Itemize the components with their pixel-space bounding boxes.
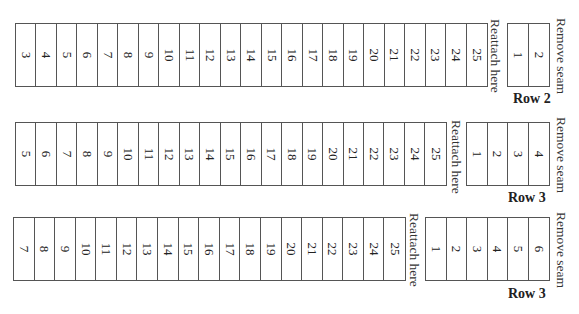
cell-number: 20	[326, 148, 339, 161]
cell-number: 11	[142, 148, 155, 161]
cell-number: 10	[163, 49, 176, 62]
cell-number: 2	[532, 52, 545, 59]
strip-cell: 19	[303, 123, 323, 185]
cell-number: 13	[141, 243, 154, 256]
strip-cell: 9	[139, 24, 159, 86]
seam-cell: 2	[488, 123, 509, 185]
seam-cell: 4	[529, 123, 549, 185]
cell-number: 19	[306, 148, 319, 161]
strip-cell: 4	[36, 24, 56, 86]
cell-number: 10	[122, 148, 135, 161]
cell-number: 13	[224, 49, 237, 62]
strip-cell: 16	[241, 123, 261, 185]
cell-number: 6	[81, 52, 94, 59]
seam-cell: 5	[508, 218, 529, 280]
cell-number: 8	[122, 52, 135, 59]
strip-cell: 10	[118, 123, 138, 185]
strip-cell: 13	[137, 218, 158, 280]
cell-number: 9	[101, 151, 114, 158]
remove-seam-label: Remove seam	[555, 212, 569, 288]
reattach-label: Reattach here	[408, 213, 422, 287]
cell-number: 16	[202, 243, 215, 256]
strip-cell: 8	[118, 24, 138, 86]
strip-cell: 11	[180, 24, 200, 86]
strip-cell: 7	[98, 24, 118, 86]
strip-cell: 21	[344, 123, 364, 185]
cell-number: 1	[511, 52, 524, 59]
cell-number: 20	[285, 243, 298, 256]
remove-seam-label: Remove seam	[555, 117, 569, 193]
cell-number: 8	[38, 246, 51, 253]
remove-seam-label: Remove seam	[555, 18, 569, 94]
strip-cell: 24	[364, 218, 385, 280]
cell-number: 15	[224, 148, 237, 161]
strip-cell: 24	[405, 123, 425, 185]
strip-cell: 14	[158, 218, 179, 280]
strip-cell: 19	[261, 218, 282, 280]
cell-number: 1	[470, 151, 483, 158]
seam-cell: 1	[508, 24, 529, 86]
strip-cell: 22	[364, 123, 384, 185]
cell-number: 14	[203, 148, 216, 161]
seam-strip-2: 1 2 3 4	[466, 122, 550, 186]
cell-number: 17	[223, 243, 236, 256]
strip-cell: 8	[35, 218, 56, 280]
cell-number: 14	[245, 49, 258, 62]
cell-number: 12	[204, 49, 217, 62]
seam-cell: 2	[447, 218, 468, 280]
strip-cell: 15	[262, 24, 282, 86]
strip-cell: 20	[364, 24, 384, 86]
main-strip-2: 5 6 7 8 9 10 11 12 13 14 15 16 17 18 19 …	[15, 122, 447, 186]
strip-cell: 12	[117, 218, 138, 280]
strip-cell: 18	[282, 123, 302, 185]
cell-number: 5	[60, 52, 73, 59]
cell-number: 19	[347, 49, 360, 62]
cell-number: 7	[17, 246, 30, 253]
seam-strip-3: 1 2 3 4 5 6	[425, 217, 550, 281]
strip-cell: 17	[303, 24, 323, 86]
cell-number: 22	[367, 148, 380, 161]
seam-cell: 4	[488, 218, 509, 280]
seam-cell: 2	[529, 24, 549, 86]
seam-cell: 3	[508, 123, 529, 185]
cell-number: 9	[142, 52, 155, 59]
strip-cell: 22	[405, 24, 425, 86]
cell-number: 5	[19, 151, 32, 158]
cell-number: 4	[491, 246, 504, 253]
cell-number: 15	[182, 243, 195, 256]
strip-cell: 12	[159, 123, 179, 185]
cell-number: 2	[450, 246, 463, 253]
cell-number: 1	[429, 246, 442, 253]
reattach-label: Reattach here	[489, 19, 503, 93]
cell-number: 6	[40, 151, 53, 158]
strip-cell: 19	[344, 24, 364, 86]
cell-number: 23	[429, 49, 442, 62]
cell-number: 15	[265, 49, 278, 62]
cell-number: 23	[347, 243, 360, 256]
cell-number: 21	[305, 243, 318, 256]
seam-cell: 3	[467, 218, 488, 280]
strip-cell: 11	[96, 218, 117, 280]
strip-cell: 22	[323, 218, 344, 280]
strip-cell: 16	[282, 24, 302, 86]
cell-number: 24	[449, 49, 462, 62]
strip-cell: 20	[323, 123, 343, 185]
strip-cell: 18	[323, 24, 343, 86]
seam-cell: 1	[467, 123, 488, 185]
cell-number: 2	[491, 151, 504, 158]
cell-number: 7	[60, 151, 73, 158]
strip-cell: 24	[446, 24, 466, 86]
cell-number: 25	[429, 148, 442, 161]
strip-cell: 23	[426, 24, 446, 86]
cell-number: 17	[306, 49, 319, 62]
cell-number: 8	[81, 151, 94, 158]
strip-cell: 6	[77, 24, 97, 86]
cell-number: 22	[326, 243, 339, 256]
strip-cell: 7	[14, 218, 35, 280]
strip-cell: 15	[179, 218, 200, 280]
strip-cell: 10	[159, 24, 179, 86]
strip-cell: 16	[199, 218, 220, 280]
strip-cell: 10	[76, 218, 97, 280]
seam-cell: 6	[529, 218, 549, 280]
strip-cell: 14	[241, 24, 261, 86]
